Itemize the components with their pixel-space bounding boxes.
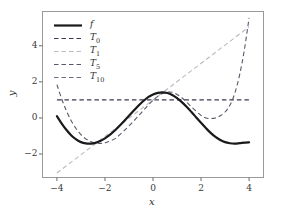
x-tick-label: −2 [96,183,114,193]
y-tick-label: −2 [17,148,38,158]
legend-label-T5: T5 [90,58,100,71]
y-tick-label: 2 [17,76,38,86]
y-tick-marks [39,46,43,154]
y-axis-title: y [6,90,17,96]
x-tick-marks [57,178,249,182]
y-tick-label: 4 [17,40,38,50]
x-axis-title: x [149,196,155,207]
x-tick-label: 0 [144,183,162,193]
x-tick-label: 4 [240,183,258,193]
x-tick-label: −4 [48,183,66,193]
chart-figure: −4−2024 −2024 x y fT0T1T5T10 [0,0,285,216]
legend-label-T0: T0 [90,32,100,45]
legend-label-T10: T10 [90,71,104,84]
legend-label-f: f [90,19,93,29]
legend-label-T1: T1 [90,45,100,58]
x-tick-label: 2 [192,183,210,193]
y-tick-label: 0 [17,112,38,122]
